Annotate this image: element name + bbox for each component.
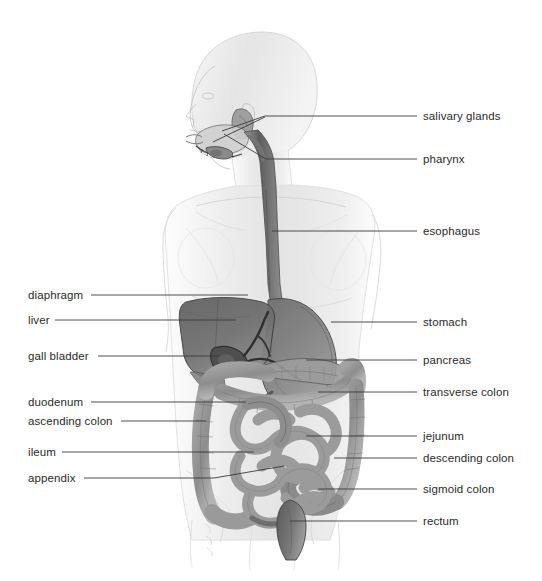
label-ileum: ileum — [28, 446, 56, 458]
label-pancreas: pancreas — [423, 354, 471, 366]
label-stomach: stomach — [423, 316, 467, 328]
label-gall-bladder: gall bladder — [28, 350, 89, 362]
label-pharynx: pharynx — [423, 153, 465, 165]
label-rectum: rectum — [423, 515, 459, 527]
label-salivary-glands: salivary glands — [423, 110, 501, 122]
label-sigmoid-colon: sigmoid colon — [423, 483, 495, 495]
label-diaphragm: diaphragm — [28, 289, 83, 301]
label-duodenum: duodenum — [28, 396, 83, 408]
digestive-system-figure: diaphragmlivergall bladderduodenumascend… — [0, 0, 542, 581]
label-descending-colon: descending colon — [423, 452, 514, 464]
label-appendix: appendix — [28, 472, 75, 484]
label-jejunum: jejunum — [423, 430, 464, 442]
label-liver: liver — [28, 314, 50, 326]
label-transverse-colon: transverse colon — [423, 386, 509, 398]
label-esophagus: esophagus — [423, 225, 480, 237]
label-ascending-colon: ascending colon — [28, 415, 113, 427]
